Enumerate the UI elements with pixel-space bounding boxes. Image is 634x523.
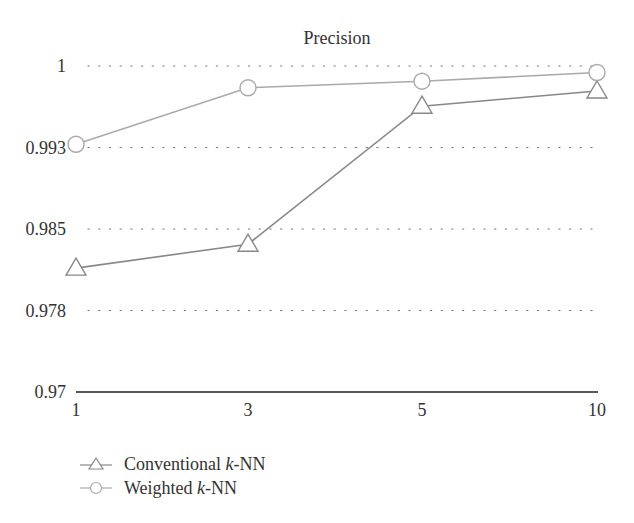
series-group	[66, 65, 607, 276]
triangle-marker-icon	[238, 234, 258, 251]
x-tick-label: 1	[72, 400, 81, 420]
series-line	[76, 73, 597, 145]
y-tick-label: 0.985	[26, 219, 67, 239]
x-tick-label: 5	[418, 400, 427, 420]
legend-item-weighted: Weighted k-NN	[78, 476, 266, 500]
y-tick-label: 0.978	[26, 301, 67, 321]
series-line	[76, 91, 597, 268]
y-axis-ticks: 10.9930.9850.9780.97	[26, 56, 67, 402]
circle-marker-icon	[68, 136, 84, 152]
circle-marker-icon	[240, 80, 256, 96]
x-tick-label: 3	[244, 400, 253, 420]
grid-lines	[88, 66, 598, 311]
x-tick-label: 10	[588, 400, 606, 420]
x-axis-ticks: 13510	[72, 400, 607, 420]
legend: Conventional k-NN Weighted k-NN	[78, 452, 266, 500]
triangle-marker-icon	[587, 81, 607, 98]
y-tick-label: 0.97	[35, 382, 67, 402]
circle-marker-icon	[78, 480, 114, 496]
circle-marker-icon	[589, 65, 605, 81]
y-tick-label: 1	[57, 56, 66, 76]
y-tick-label: 0.993	[26, 138, 67, 158]
circle-marker-icon	[414, 73, 430, 89]
precision-chart: Precision 10.9930.9850.9780.97 13510	[0, 0, 634, 450]
legend-item-conventional: Conventional k-NN	[78, 452, 266, 476]
chart-title: Precision	[304, 28, 371, 48]
triangle-marker-icon	[412, 96, 432, 113]
triangle-marker-icon	[78, 456, 114, 472]
